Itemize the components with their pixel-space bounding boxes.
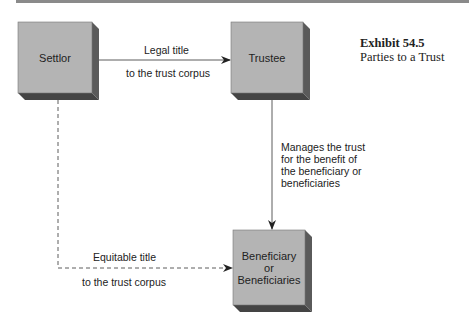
manages-line-2: for the benefit of xyxy=(281,153,365,165)
equitable-title-sublabel: to the trust corpus xyxy=(82,276,166,288)
manages-line-3: the beneficiary or xyxy=(281,165,365,177)
legal-title-label: Legal title xyxy=(144,44,189,56)
trustee-label: Trustee xyxy=(231,22,303,93)
equitable-title-arrow xyxy=(58,100,232,268)
manages-label: Manages the trust for the benefit of the… xyxy=(281,141,365,189)
beneficiary-line-2: or xyxy=(264,262,274,274)
settlor-label: Settlor xyxy=(18,22,92,93)
manages-line-1: Manages the trust xyxy=(281,141,365,153)
beneficiary-line-3: Beneficiaries xyxy=(238,274,301,286)
exhibit-title: Exhibit 54.5 xyxy=(360,36,425,51)
equitable-title-label: Equitable title xyxy=(93,251,156,263)
beneficiary-line-1: Beneficiary xyxy=(242,250,296,262)
legal-title-sublabel: to the trust corpus xyxy=(126,67,210,79)
beneficiary-label: Beneficiary or Beneficiaries xyxy=(233,230,305,305)
exhibit-subtitle: Parties to a Trust xyxy=(360,50,444,65)
manages-line-4: beneficiaries xyxy=(281,177,365,189)
